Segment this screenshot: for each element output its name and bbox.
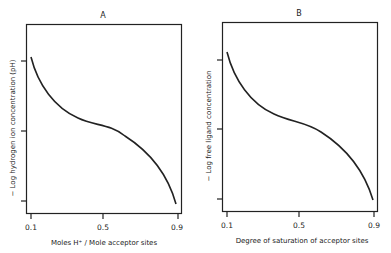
panel-b-curve <box>227 52 373 200</box>
panel-a-curve <box>31 57 176 204</box>
panel-a-xtick-label: 0.9 <box>171 223 183 232</box>
panel-b-xtick-label: 0.9 <box>368 221 380 230</box>
panel-b-ylabel: − Log free ligand concentration <box>205 70 213 181</box>
panel-a-xtick-label: 0.1 <box>25 223 37 232</box>
panel-b: B 0.1 0.5 0.9 Degree of saturation of ac… <box>205 9 380 245</box>
panel-b-xtick-label: 0.5 <box>293 221 305 230</box>
panel-a-xtick-label: 0.5 <box>97 223 109 232</box>
figure: A 0.1 0.5 0.9 Moles H⁺ / Mole acceptor s… <box>0 0 391 253</box>
panel-b-frame <box>223 23 378 212</box>
panel-a-frame <box>27 25 182 214</box>
panel-b-xtick-label: 0.1 <box>221 221 233 230</box>
panel-a: A 0.1 0.5 0.9 Moles H⁺ / Mole acceptor s… <box>9 11 183 247</box>
panel-a-title: A <box>100 11 106 20</box>
panel-b-title: B <box>296 9 302 18</box>
panel-a-xlabel: Moles H⁺ / Mole acceptor sites <box>51 239 158 247</box>
panel-b-xlabel: Degree of saturation of acceptor sites <box>236 237 369 245</box>
panel-a-ylabel: − Log hydrogen ion concentration (pH) <box>9 59 17 196</box>
